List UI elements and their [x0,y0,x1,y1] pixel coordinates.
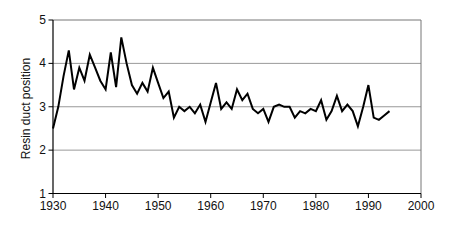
x-tick-label-1950: 1950 [145,199,172,213]
y-tick-label-5: 5 [39,13,46,27]
x-tick-label-1980: 1980 [303,199,330,213]
x-tick-label-1970: 1970 [250,199,277,213]
y-tick-label-3: 3 [39,100,46,114]
data-series-resin-duct-position [53,37,390,128]
x-tick-label-1930: 1930 [40,199,67,213]
x-tick-label-1960: 1960 [197,199,224,213]
y-tick-label-2: 2 [39,143,46,157]
figure-canvas: Resin duct position 12345193019401950196… [0,0,455,228]
x-tick-label-2000: 2000 [408,199,435,213]
x-tick-label-1940: 1940 [92,199,119,213]
y-axis-label: Resin duct position [19,39,34,179]
x-tick-label-1990: 1990 [355,199,382,213]
y-tick-label-4: 4 [39,56,46,70]
chart-svg: 1234519301940195019601970198019902000 [0,0,455,228]
